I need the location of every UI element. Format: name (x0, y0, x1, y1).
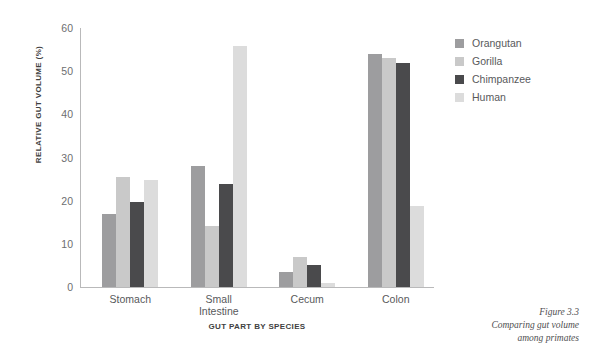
plot-area: 0102030405060 StomachSmallIntestineCecum… (80, 28, 434, 288)
legend-label: Human (472, 91, 506, 103)
y-tick-label: 10 (61, 238, 73, 250)
y-axis-title: RELATIVE GUT VOLUME (%) (34, 5, 43, 205)
bar (321, 283, 335, 287)
bar-group (279, 28, 335, 287)
bar (233, 46, 247, 287)
bar (219, 184, 233, 287)
x-axis-line (80, 287, 434, 288)
bar (307, 265, 321, 287)
bar-group (191, 28, 247, 287)
legend-swatch-icon (455, 93, 464, 102)
bar (144, 180, 158, 287)
bar-group (368, 28, 424, 287)
bar (368, 54, 382, 287)
caption-figure-number: Figure 3.3 (419, 306, 579, 319)
y-tick-label: 60 (61, 22, 73, 34)
bar (410, 206, 424, 287)
y-tick-label: 20 (61, 195, 73, 207)
legend-item: Human (455, 88, 575, 106)
x-axis-category-label: Colon (336, 293, 456, 305)
legend-swatch-icon (455, 75, 464, 84)
legend-label: Orangutan (472, 37, 522, 49)
y-tick-label: 30 (61, 152, 73, 164)
bar (382, 58, 396, 287)
caption-line-2: among primates (419, 332, 579, 345)
x-axis-category-label-line: Intestine (159, 305, 279, 317)
bar (130, 202, 144, 287)
y-tick-label: 50 (61, 65, 73, 77)
legend-swatch-icon (455, 57, 464, 66)
y-tick-label: 0 (67, 281, 73, 293)
y-axis-line (80, 28, 81, 287)
bar (191, 166, 205, 287)
legend-label: Gorilla (472, 55, 502, 67)
legend: OrangutanGorillaChimpanzeeHuman (455, 34, 575, 106)
bar-group (102, 28, 158, 287)
legend-item: Gorilla (455, 52, 575, 70)
bar (293, 257, 307, 287)
figure-caption: Figure 3.3 Comparing gut volume among pr… (419, 306, 579, 345)
bar (116, 177, 130, 287)
bar (396, 63, 410, 287)
bar (102, 214, 116, 287)
legend-item: Orangutan (455, 34, 575, 52)
caption-line-1: Comparing gut volume (419, 319, 579, 332)
bar (205, 226, 219, 287)
legend-item: Chimpanzee (455, 70, 575, 88)
bar (279, 272, 293, 287)
legend-label: Chimpanzee (472, 73, 531, 85)
x-axis-title: GUT PART BY SPECIES (80, 322, 434, 331)
legend-swatch-icon (455, 39, 464, 48)
y-tick-label: 40 (61, 108, 73, 120)
figure-gut-volume-chart: RELATIVE GUT VOLUME (%) 0102030405060 St… (0, 0, 589, 353)
